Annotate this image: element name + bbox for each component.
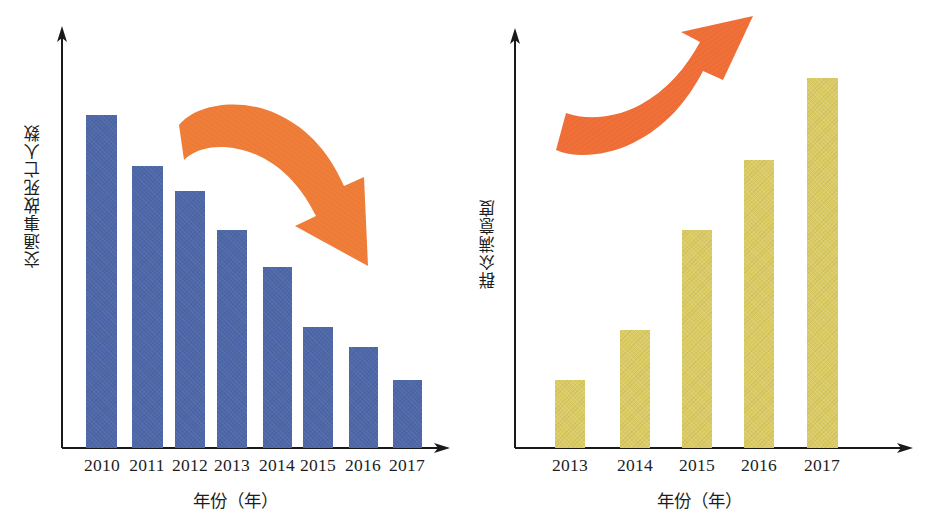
bar-2011 xyxy=(132,166,163,448)
x-tick-2017: 2017 xyxy=(786,455,858,476)
x-tick-2013: 2013 xyxy=(534,455,606,476)
y-axis-title: 群众满意度 xyxy=(477,199,501,289)
chart-panel-public-satisfaction: 2013 2014 2015 2016 2017 年份（年） 群众满意度 xyxy=(470,0,940,530)
dual-bar-chart-figure: 2010 2011 2012 2013 2014 2015 2016 2017 … xyxy=(0,0,940,530)
bar-2017 xyxy=(393,380,422,448)
x-axis-title: 年份（年） xyxy=(145,487,325,512)
bar-2014 xyxy=(620,330,650,448)
bar-2013 xyxy=(217,230,247,448)
bar-2013 xyxy=(555,380,585,448)
bar-2015 xyxy=(303,327,333,448)
bar-2010 xyxy=(86,115,117,448)
x-axis-title: 年份（年） xyxy=(609,487,789,512)
bar-2017 xyxy=(807,78,838,448)
chart-panel-traffic-deaths: 2010 2011 2012 2013 2014 2015 2016 2017 … xyxy=(0,0,470,530)
x-tick-2017: 2017 xyxy=(371,455,443,476)
x-tick-2016: 2016 xyxy=(723,455,795,476)
bar-2016 xyxy=(744,160,774,448)
y-axis-title: 交通事故死亡人数 xyxy=(22,124,46,268)
bar-2012 xyxy=(175,191,205,448)
bar-2014 xyxy=(263,267,292,448)
bar-2015 xyxy=(682,230,712,448)
bar-2016 xyxy=(349,347,378,448)
